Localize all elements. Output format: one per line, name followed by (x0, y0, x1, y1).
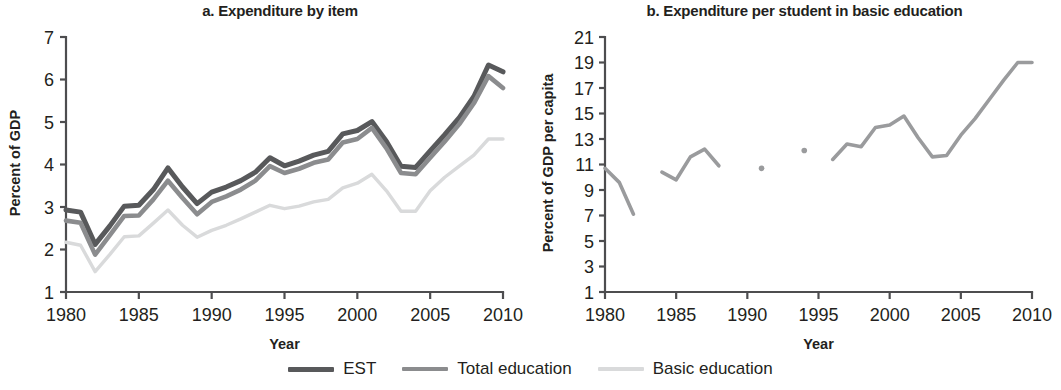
y-tick-label: 9 (584, 181, 594, 201)
x-tick-label: 2010 (1012, 305, 1052, 325)
figure-legend: ESTTotal educationBasic education (0, 352, 1061, 386)
x-tick-label: 1990 (192, 305, 232, 325)
y-tick-label: 5 (44, 113, 54, 133)
data-point-marker (759, 166, 765, 172)
series-line-basic-education-per-student (833, 63, 1032, 160)
y-tick-label: 13 (574, 130, 594, 150)
legend-swatch-icon (598, 367, 644, 370)
y-tick-label: 3 (584, 257, 594, 277)
y-tick-label: 7 (44, 28, 54, 48)
y-tick-label: 6 (44, 70, 54, 90)
chart-b-axis-spine (605, 37, 1032, 292)
x-tick-label: 2005 (410, 305, 450, 325)
chart-panel-b: b. Expenditure per student in basic educ… (530, 0, 1061, 345)
legend-item-est: EST (288, 359, 376, 379)
x-tick-label: 1990 (727, 305, 767, 325)
figure-root: a. Expenditure by item Percent of GDP Ye… (0, 0, 1061, 390)
series-line-basic-education-per-student (605, 168, 633, 214)
x-tick-label: 1985 (119, 305, 159, 325)
legend-item-total-education: Total education (402, 359, 571, 379)
legend-item-basic-education: Basic education (598, 359, 773, 379)
y-tick-label: 11 (575, 155, 594, 175)
y-tick-label: 17 (574, 79, 594, 99)
series-line-basic-education-per-student (662, 149, 719, 180)
x-tick-label: 2010 (483, 305, 523, 325)
y-tick-label: 1 (584, 283, 594, 303)
x-tick-label: 1995 (798, 305, 838, 325)
x-tick-label: 2005 (941, 305, 981, 325)
x-tick-label: 2000 (870, 305, 910, 325)
legend-label: Basic education (653, 359, 773, 379)
y-tick-label: 1 (44, 283, 54, 303)
y-tick-label: 5 (584, 232, 594, 252)
x-tick-label: 1995 (264, 305, 304, 325)
x-tick-label: 2000 (337, 305, 377, 325)
legend-label: EST (343, 359, 376, 379)
legend-label: Total education (457, 359, 571, 379)
chart-b-plot: 1357911131517192119801985199019952000200… (530, 0, 1061, 345)
y-tick-label: 3 (44, 198, 54, 218)
y-tick-label: 4 (44, 155, 54, 175)
y-tick-label: 2 (44, 240, 54, 260)
y-tick-label: 19 (574, 53, 594, 73)
y-tick-label: 15 (574, 104, 594, 124)
y-tick-label: 7 (584, 206, 594, 226)
legend-swatch-icon (402, 367, 448, 372)
chart-panel-a: a. Expenditure by item Percent of GDP Ye… (0, 0, 530, 345)
legend-swatch-icon (288, 367, 334, 372)
x-tick-label: 1980 (46, 305, 86, 325)
chart-a-plot: 12345671980198519901995200020052010 (0, 0, 530, 345)
y-tick-label: 21 (574, 28, 594, 48)
data-point-marker (801, 148, 807, 154)
x-tick-label: 1980 (585, 305, 625, 325)
x-tick-label: 1985 (656, 305, 696, 325)
